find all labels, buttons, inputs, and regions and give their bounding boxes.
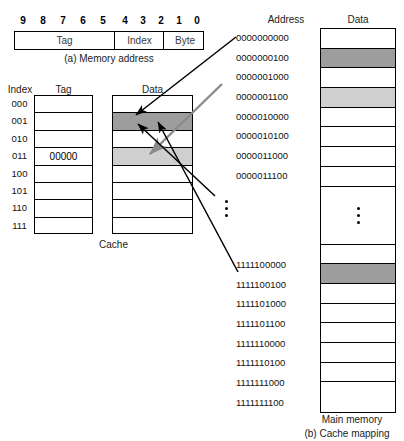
arrow-mem-midrange-to-cache-001 <box>138 124 215 196</box>
arrow-mem-0000000100-to-cache-001 <box>136 37 236 115</box>
mapping-arrows <box>0 0 404 441</box>
arrow-mem-1111100100-to-cache-001 <box>158 122 238 272</box>
arrow-mem-0000001100-to-cache-011 <box>150 84 222 154</box>
cache-mapping-figure: 9 8 7 6 5 4 3 2 1 0 Tag Index Byte (a) M… <box>0 0 404 441</box>
